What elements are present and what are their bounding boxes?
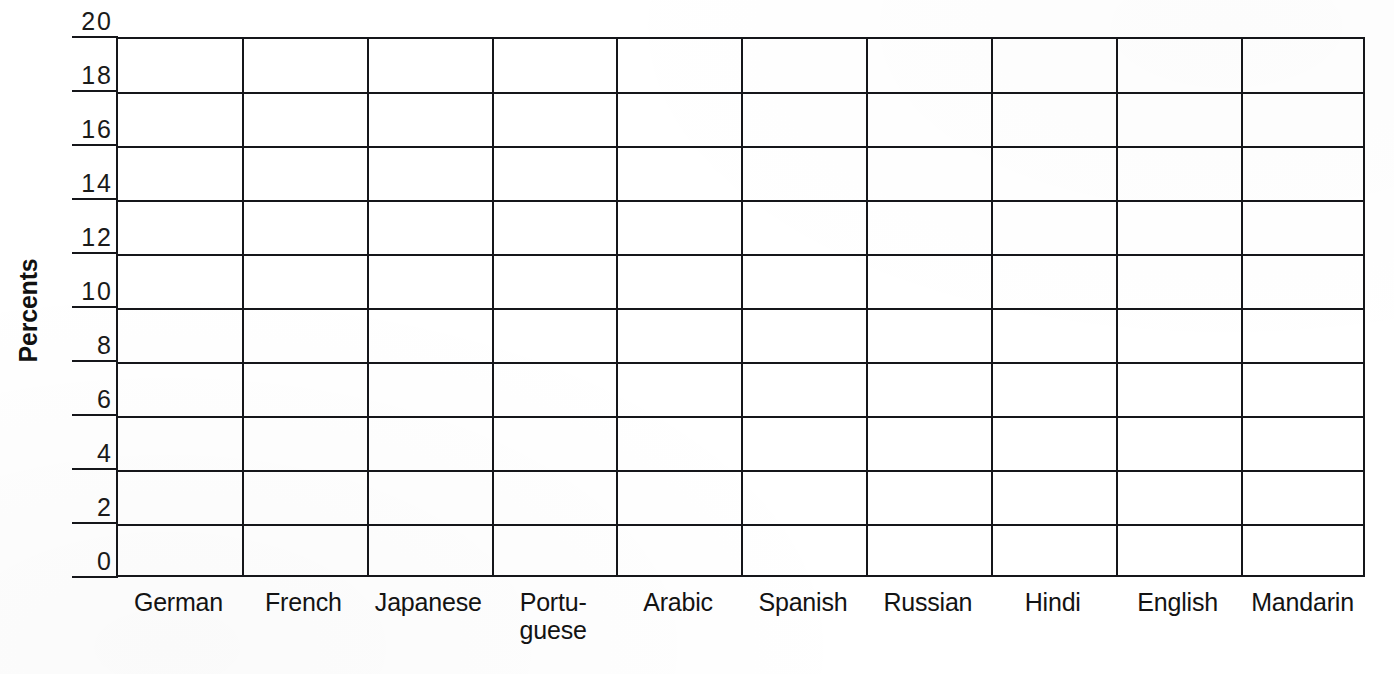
tick-mark-2 [72, 522, 118, 524]
column-divider-2 [367, 39, 369, 575]
tick-mark-4 [72, 468, 118, 470]
x-category-label-spanish: Spanish [741, 588, 866, 616]
tick-mark-16 [72, 144, 118, 146]
column-divider-7 [991, 39, 993, 575]
plot-area[interactable] [116, 37, 1365, 577]
y-tick-label-8: 8 [97, 333, 113, 358]
y-tick-label-0: 0 [97, 549, 113, 574]
y-tick-label-12: 12 [81, 225, 113, 250]
y-tick-label-14: 14 [81, 171, 113, 196]
x-category-label-mandarin: Mandarin [1240, 588, 1365, 616]
x-category-label-line: Arabic [616, 588, 741, 616]
x-category-label-line: Mandarin [1240, 588, 1365, 616]
tick-mark-12 [72, 252, 118, 254]
y-tick-label-2: 2 [97, 495, 113, 520]
x-category-label-french: French [241, 588, 366, 616]
column-divider-5 [741, 39, 743, 575]
column-divider-4 [616, 39, 618, 575]
x-category-label-line: German [116, 588, 241, 616]
y-tick-label-16: 16 [81, 117, 113, 142]
column-divider-8 [1116, 39, 1118, 575]
x-category-label-portuguese: Portu-guese [491, 588, 616, 644]
x-category-label-line: Portu- [491, 588, 616, 616]
x-category-label-arabic: Arabic [616, 588, 741, 616]
column-divider-9 [1241, 39, 1243, 575]
y-tick-label-10: 10 [81, 279, 113, 304]
x-category-label-german: German [116, 588, 241, 616]
x-category-label-line: Japanese [366, 588, 491, 616]
y-tick-label-18: 18 [81, 63, 113, 88]
bar-chart-worksheet: Percents 20181614121086420 GermanFrenchJ… [0, 0, 1394, 674]
x-category-label-line: guese [491, 616, 616, 644]
tick-mark-18 [72, 90, 118, 92]
x-category-label-line: Russian [865, 588, 990, 616]
x-category-label-line: Spanish [741, 588, 866, 616]
x-category-label-line: English [1115, 588, 1240, 616]
x-category-label-hindi: Hindi [990, 588, 1115, 616]
tick-mark-6 [72, 414, 118, 416]
tick-mark-20 [72, 36, 118, 38]
x-category-label-line: Hindi [990, 588, 1115, 616]
column-divider-1 [242, 39, 244, 575]
y-tick-label-6: 6 [97, 387, 113, 412]
tick-mark-14 [72, 198, 118, 200]
column-divider-6 [866, 39, 868, 575]
y-tick-label-4: 4 [97, 441, 113, 466]
tick-mark-10 [72, 306, 118, 308]
x-category-label-japanese: Japanese [366, 588, 491, 616]
x-category-label-english: English [1115, 588, 1240, 616]
y-axis-title: Percents [14, 251, 43, 371]
column-divider-3 [492, 39, 494, 575]
y-tick-label-20: 20 [81, 9, 113, 34]
tick-mark-0 [72, 576, 118, 578]
tick-mark-8 [72, 360, 118, 362]
x-category-label-russian: Russian [865, 588, 990, 616]
x-category-label-line: French [241, 588, 366, 616]
